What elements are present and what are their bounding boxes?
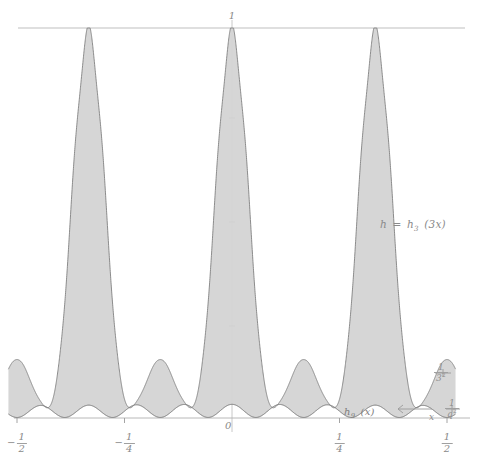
fraction-numerator: 1 <box>124 432 135 444</box>
fraction-numerator: 1 <box>334 432 345 444</box>
figure-container: 1 0 h = h3 (3x) h9 (x) 1 32 1 q2 x −12−1… <box>0 0 483 474</box>
envelope-label-subscript: 3 <box>414 224 419 233</box>
lower-label-fn: h <box>344 406 351 417</box>
fraction-numerator: 1 <box>442 432 453 444</box>
fraction-denominator-exponent: 2 <box>453 408 457 414</box>
envelope-label-equals: = <box>391 218 404 230</box>
minus-sign: − <box>7 438 17 448</box>
fraction-denominator: 2 <box>442 444 453 455</box>
math-plot <box>0 0 483 474</box>
x-tick-label: −14 <box>114 432 134 454</box>
x-axis-name-label: x <box>429 413 434 422</box>
x-tick-label: 14 <box>334 432 345 454</box>
lower-label-subscript: 9 <box>351 412 356 420</box>
x-tick-label: −12 <box>7 432 27 454</box>
fraction-denominator: 4 <box>334 444 345 455</box>
envelope-label-arg: (3x) <box>422 218 446 230</box>
y-axis-label-one: 1 <box>229 11 236 21</box>
origin-label: 0 <box>225 421 232 431</box>
lower-label-arg: (x) <box>359 406 375 417</box>
fraction-numerator: 1 <box>17 432 28 444</box>
fraction-denominator: 4 <box>124 444 135 455</box>
right-fraction-one-over-q-squared: 1 q2 <box>445 399 459 420</box>
fraction-denominator-exponent: 2 <box>442 372 446 378</box>
fraction-denominator: 32 <box>434 373 448 383</box>
envelope-curve-label: h = h3 (3x) <box>380 219 446 232</box>
x-tick-label: 12 <box>442 432 453 454</box>
lower-curve-label: h9 (x) <box>344 407 375 420</box>
envelope-label-fn: h <box>407 218 414 230</box>
minus-sign: − <box>114 438 124 448</box>
right-fraction-one-over-three-squared: 1 32 <box>434 363 448 384</box>
fraction-denominator: q2 <box>445 409 459 419</box>
envelope-label-lhs: h <box>380 218 387 230</box>
fraction-denominator: 2 <box>17 444 28 455</box>
